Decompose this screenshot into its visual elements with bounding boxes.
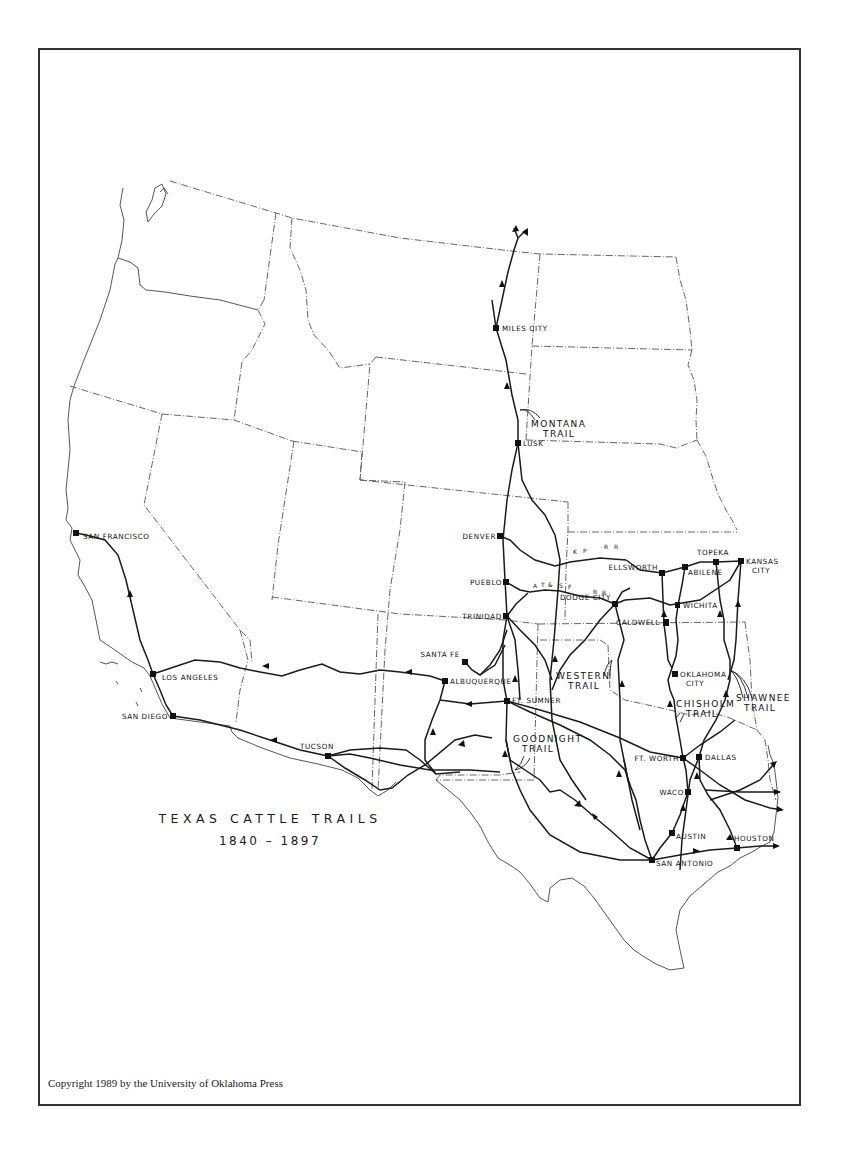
rr-label-f: F — [568, 583, 572, 590]
copyright-notice: Copyright 1989 by the University of Okla… — [48, 1077, 283, 1089]
rr-label-r1: R — [604, 543, 608, 550]
city-label-dallas: DALLAS — [705, 753, 737, 762]
city-label-ft-worth: FT. WORTH — [634, 754, 679, 763]
city-marker — [680, 755, 686, 761]
city-label-lusk: LUSK — [523, 439, 544, 448]
trail-label-montana: MONTANA — [531, 419, 586, 429]
city-label-ft-sumner: FT. SUMNER — [512, 696, 561, 705]
trail-label-western: WESTERN — [556, 671, 610, 681]
city-markers — [73, 325, 744, 863]
city-label-oklahoma-city: CITY — [686, 679, 704, 688]
city-marker — [515, 440, 521, 446]
city-label-caldwell: CALDWELL — [616, 618, 660, 627]
trail-label-montana-2: TRAIL — [542, 429, 575, 439]
rr-label-a: A — [533, 582, 538, 589]
trail-label-shawnee-2: TRAIL — [743, 703, 776, 713]
city-marker — [170, 713, 176, 719]
city-label-ellsworth: ELLSWORTH — [608, 563, 658, 572]
map-title: TEXAS CATTLE TRAILS — [140, 808, 400, 830]
city-label-topeka: TOPEKA — [696, 548, 729, 557]
city-label-pueblo: PUEBLO — [470, 578, 502, 587]
coastline — [66, 184, 778, 970]
trail-label-shawnee: SHAWNEE — [736, 693, 791, 703]
city-marker — [659, 570, 665, 576]
city-marker — [503, 613, 509, 619]
rr-label-s: S — [559, 582, 563, 589]
city-label-san-antonio: SAN ANTONIO — [656, 859, 713, 868]
city-label-dodge-city: DODGE CITY — [560, 593, 611, 602]
rr-label-amp: & — [548, 581, 553, 588]
trail-label-western-2: TRAIL — [567, 681, 600, 691]
city-marker — [734, 845, 740, 851]
city-labels: MILES CITY LUSK DENVER PUEBLO TRINIDAD S… — [83, 324, 779, 868]
city-label-los-angeles: LOS ANGELES — [162, 673, 218, 682]
railroad-labels: K P R R A T & S F R R — [533, 543, 618, 596]
city-label-abilene: ABILENE — [688, 568, 723, 577]
rr-label-t: T — [540, 581, 545, 588]
map-dates: 1840 – 1897 — [140, 830, 400, 852]
map-title-block: TEXAS CATTLE TRAILS 1840 – 1897 — [140, 808, 400, 852]
state-borders — [70, 181, 776, 800]
city-marker — [150, 671, 156, 677]
city-label-tucson: TUCSON — [299, 742, 334, 751]
city-label-trinidad: TRINIDAD — [461, 612, 502, 621]
city-label-miles-city: MILES CITY — [502, 324, 548, 333]
city-label-kansas-city: CITY — [752, 566, 770, 575]
western-us-map: K P R R A T & S F R R — [0, 0, 842, 1157]
city-label-santa-fe: SANTA FE — [421, 650, 461, 659]
city-label-kansas: KANSAS — [746, 557, 779, 566]
city-marker — [675, 602, 680, 608]
city-marker — [462, 659, 468, 665]
city-marker — [685, 789, 691, 795]
city-label-san-francisco: SAN FRANCISCO — [83, 532, 150, 541]
trail-label-chisholm: CHISHOLM — [676, 699, 735, 709]
city-label-waco: WACO — [659, 788, 684, 797]
city-marker — [442, 678, 448, 684]
city-label-houston: HOUSTON — [734, 834, 775, 843]
city-label-wichita: WICHITA — [683, 601, 718, 610]
city-marker — [669, 830, 675, 836]
city-marker — [325, 753, 331, 759]
trail-label-chisholm-2: TRAIL — [685, 709, 718, 719]
city-marker — [696, 754, 702, 760]
city-marker — [738, 558, 744, 564]
city-marker — [663, 619, 669, 626]
rr-label-k: K — [573, 548, 578, 555]
city-marker — [672, 671, 678, 677]
city-marker — [493, 325, 499, 331]
city-label-denver: DENVER — [462, 532, 496, 541]
rr-label-p: P — [583, 547, 587, 554]
city-marker — [497, 533, 503, 539]
city-label-albuquerque: ALBUQUERQUE — [450, 677, 512, 686]
city-marker — [503, 579, 509, 585]
trail-label-goodnight: GOODNIGHT — [513, 734, 582, 744]
city-marker — [649, 857, 655, 863]
cattle-trails — [76, 228, 782, 870]
trail-label-goodnight-2: TRAIL — [521, 744, 554, 754]
city-marker — [713, 559, 719, 565]
city-marker — [73, 530, 79, 536]
city-marker — [612, 601, 618, 607]
city-marker — [504, 698, 510, 704]
city-label-san-diego: SAN DIEGO — [122, 712, 168, 721]
city-label-austin: AUSTIN — [676, 832, 706, 841]
city-label-oklahoma: OKLAHOMA — [680, 670, 726, 679]
rr-label-r2: R — [614, 543, 618, 550]
